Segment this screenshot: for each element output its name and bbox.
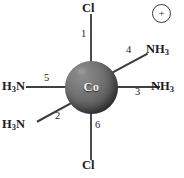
ligand-lowerleft-tail: N (16, 117, 25, 131)
ligand-bottom-text: Cl (82, 158, 95, 172)
ligand-top-text: Cl (82, 1, 95, 15)
coordination-complex-diagram: Co Cl Cl H3N H3N NH3 NH3 1 2 3 4 5 6 + (0, 0, 184, 178)
ligand-lowerleft-main: H (2, 117, 12, 131)
ligand-label-chloride-bottom: Cl (82, 158, 95, 173)
bond-number-2: 2 (55, 110, 60, 121)
cobalt-symbol-label: Co (65, 61, 118, 114)
bond-number-4: 4 (126, 44, 131, 55)
ligand-upperright-main: NH (146, 42, 165, 56)
ligand-label-ammine-left: H3N (2, 79, 25, 94)
ligand-left-tail: N (16, 79, 25, 93)
ligand-right-main: NH (151, 79, 170, 93)
ligand-right-sub: 3 (170, 84, 174, 94)
bond-number-3: 3 (135, 86, 140, 97)
positive-charge-icon: + (152, 4, 171, 23)
ligand-left-main: H (2, 79, 12, 93)
ligand-label-ammine-upper-right: NH3 (146, 42, 169, 57)
charge-symbol-text: + (158, 8, 164, 19)
bond-line-1 (90, 14, 92, 66)
bond-number-6: 6 (95, 119, 100, 130)
ligand-label-ammine-right: NH3 (151, 79, 174, 94)
bond-number-1: 1 (81, 28, 86, 39)
ligand-label-ammine-lower-left: H3N (2, 117, 25, 132)
ligand-label-chloride-top: Cl (82, 1, 95, 16)
cobalt-center-sphere: Co (65, 61, 118, 114)
bond-line-6 (90, 108, 92, 160)
ligand-upperright-sub: 3 (165, 47, 169, 57)
bond-number-5: 5 (44, 72, 49, 83)
ligand-left-sub: 3 (12, 84, 16, 94)
ligand-lowerleft-sub: 3 (12, 122, 16, 132)
